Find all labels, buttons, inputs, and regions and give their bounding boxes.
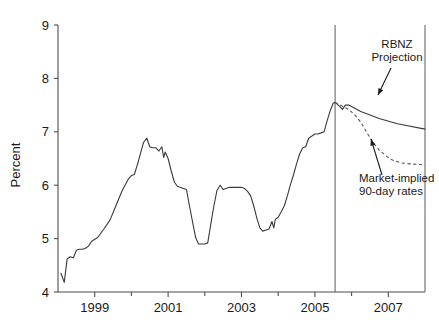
annotation-market-implied-rates: Market-implied90-day rates bbox=[359, 139, 434, 197]
x-axis: 19992001200320052007 bbox=[58, 292, 425, 315]
annotation-label: RBNZ bbox=[381, 38, 412, 50]
y-axis-tick-labels: 456789 bbox=[42, 18, 49, 300]
x-tick-label: 2005 bbox=[300, 300, 329, 315]
annotation-arrowhead bbox=[378, 88, 383, 95]
annotation-label: 90-day rates bbox=[359, 185, 423, 197]
y-tick-label: 7 bbox=[42, 124, 49, 139]
annotation-label: Market-implied bbox=[359, 172, 434, 184]
interest-rate-line-chart: 456789 19992001200320052007 Percent RBNZ… bbox=[0, 0, 439, 331]
chart-container: 456789 19992001200320052007 Percent RBNZ… bbox=[0, 0, 439, 331]
x-axis-tick-labels: 19992001200320052007 bbox=[80, 300, 403, 315]
y-axis-ticks bbox=[54, 25, 58, 292]
y-tick-label: 5 bbox=[42, 231, 49, 246]
x-tick-label: 2007 bbox=[374, 300, 403, 315]
annotation-label: Projection bbox=[371, 51, 422, 63]
y-tick-label: 4 bbox=[42, 285, 49, 300]
vertical-marker-lines bbox=[335, 25, 425, 292]
series-line-market-implied bbox=[335, 102, 425, 164]
chart-annotations: RBNZProjectionMarket-implied90-day rates bbox=[359, 38, 434, 197]
y-tick-label: 8 bbox=[42, 71, 49, 86]
y-tick-label: 6 bbox=[42, 178, 49, 193]
x-tick-label: 2003 bbox=[227, 300, 256, 315]
y-axis: 456789 bbox=[42, 18, 58, 300]
x-tick-label: 1999 bbox=[80, 300, 109, 315]
y-tick-label: 9 bbox=[42, 18, 49, 33]
x-axis-ticks bbox=[95, 292, 389, 297]
annotation-rbnz-projection: RBNZProjection bbox=[371, 38, 422, 95]
x-tick-label: 2001 bbox=[154, 300, 183, 315]
y-axis-title: Percent bbox=[8, 142, 23, 187]
